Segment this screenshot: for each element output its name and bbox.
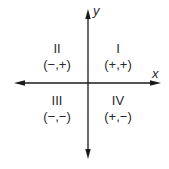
quadrant-iii-signs: (−,−): [27, 110, 87, 124]
y-axis: [85, 9, 90, 159]
quadrant-i-signs: (+,+): [88, 58, 148, 72]
x-axis-label: x: [152, 66, 159, 81]
x-axis-right-arrow-icon: [150, 80, 161, 85]
quadrant-iv-numeral: IV: [88, 94, 148, 108]
quadrant-ii-numeral: II: [27, 42, 87, 56]
coordinate-axes: [0, 0, 169, 169]
y-axis-down-arrow-icon: [85, 149, 90, 159]
quadrant-ii-signs: (−,+): [27, 58, 87, 72]
y-axis-up-arrow-icon: [85, 9, 90, 19]
y-axis-label: y: [93, 3, 100, 18]
quadrant-i-numeral: I: [88, 42, 148, 56]
quadrant-iii-numeral: III: [27, 94, 87, 108]
quadrant-iv-signs: (+,−): [88, 110, 148, 124]
x-axis-left-arrow-icon: [14, 80, 25, 85]
